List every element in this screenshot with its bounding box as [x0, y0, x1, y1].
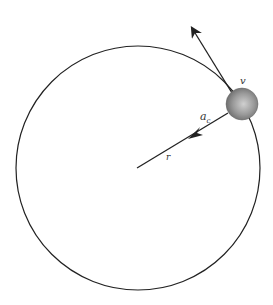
- radius-line: [137, 113, 228, 168]
- circular-motion-diagram: v ac r: [0, 0, 273, 305]
- radius-label: r: [166, 152, 171, 162]
- velocity-label: v: [240, 75, 246, 86]
- velocity-vector-arrow: [192, 28, 232, 93]
- acceleration-subscript: c: [207, 117, 211, 125]
- orbiting-ball: [226, 88, 258, 120]
- centripetal-acceleration-label: ac: [200, 110, 211, 125]
